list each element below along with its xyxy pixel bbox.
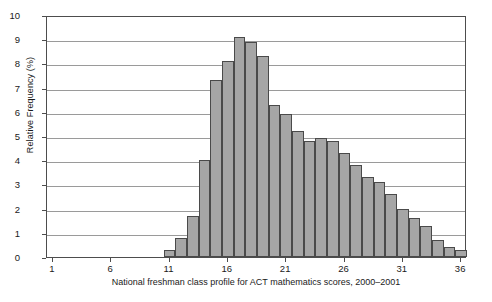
x-tick-label: 21 <box>280 264 291 274</box>
y-tick-label: 6 <box>0 108 20 118</box>
y-tick-label: 8 <box>0 59 20 69</box>
histogram-bar <box>409 218 421 257</box>
x-tick-label: 26 <box>338 264 349 274</box>
histogram-bar <box>257 56 269 257</box>
y-tick-label: 1 <box>0 229 20 239</box>
x-tick-label: 36 <box>455 264 466 274</box>
y-tick-label: 10 <box>0 11 20 21</box>
x-tick-mark <box>460 258 461 262</box>
x-axis-title: National freshman class profile for ACT … <box>46 277 466 287</box>
y-tick-label: 5 <box>0 132 20 142</box>
histogram-bar <box>397 209 409 257</box>
y-tick-label: 0 <box>0 253 20 263</box>
histogram-bar <box>362 177 374 257</box>
x-tick-mark <box>169 258 170 262</box>
histogram-bar <box>175 238 187 257</box>
histogram-bar <box>222 61 234 257</box>
histogram-bar <box>164 250 176 257</box>
histogram-bar <box>199 160 211 257</box>
x-tick-label: 16 <box>222 264 233 274</box>
histogram-bar <box>385 194 397 257</box>
histogram-bar <box>269 105 281 257</box>
histogram-bar <box>292 131 304 257</box>
histogram-bar <box>304 141 316 257</box>
histogram-bar <box>210 80 222 257</box>
y-tick-label: 3 <box>0 180 20 190</box>
histogram-bar <box>420 226 432 257</box>
x-tick-label: 31 <box>397 264 408 274</box>
y-tick-label: 7 <box>0 84 20 94</box>
y-tick-label: 4 <box>0 156 20 166</box>
x-tick-mark <box>402 258 403 262</box>
x-tick-mark <box>52 258 53 262</box>
histogram-bar <box>350 165 362 257</box>
x-tick-mark <box>344 258 345 262</box>
histogram-bar <box>280 114 292 257</box>
histogram-bar <box>234 37 246 257</box>
histogram-figure: Relative Frequency (%) 012345678910 1611… <box>0 0 492 302</box>
histogram-bar <box>374 182 386 257</box>
histogram-bar <box>315 138 327 257</box>
x-tick-mark <box>110 258 111 262</box>
y-tick-label: 2 <box>0 205 20 215</box>
plot-area <box>46 16 466 258</box>
histogram-bar <box>187 216 199 257</box>
x-tick-mark <box>227 258 228 262</box>
histogram-bar <box>245 42 257 257</box>
x-tick-mark <box>285 258 286 262</box>
histogram-bar <box>327 141 339 257</box>
x-tick-label: 11 <box>164 264 174 274</box>
x-tick-label: 1 <box>49 264 54 274</box>
x-tick-label: 6 <box>108 264 113 274</box>
histogram-bar <box>339 153 351 257</box>
bars-container <box>47 17 465 257</box>
histogram-bar <box>444 247 456 257</box>
histogram-bar <box>432 240 444 257</box>
histogram-bar <box>455 250 467 257</box>
y-tick-label: 9 <box>0 35 20 45</box>
